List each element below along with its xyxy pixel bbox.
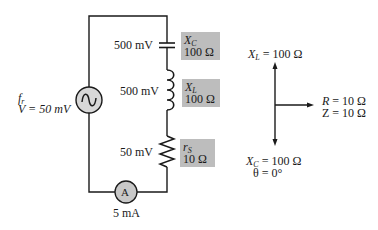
- phasor-z-label: Z = 10 Ω: [322, 107, 366, 120]
- resistor-value-box: rS 10 Ω: [180, 139, 215, 167]
- arrow-down-icon: [273, 139, 278, 146]
- resistor-voltage-label: 50 mV: [120, 146, 153, 159]
- inductor-coil: [167, 70, 174, 110]
- inductor-voltage-label: 500 mV: [120, 85, 159, 98]
- resistor-zigzag: [160, 136, 174, 167]
- ac-source-symbol: [76, 87, 102, 113]
- ammeter-reading: 5 mA: [113, 207, 140, 220]
- source-voltage-label: V = 50 mV: [18, 103, 70, 116]
- arrow-up-icon: [273, 62, 278, 69]
- phasor-angle-label: θ = 0°: [253, 167, 282, 180]
- ammeter-symbol-label: A: [121, 186, 129, 199]
- arrow-right-icon: [307, 103, 314, 108]
- capacitor-reactance-box: XC 100 Ω: [181, 32, 220, 60]
- inductor-reactance-box: XL 100 Ω: [182, 79, 220, 107]
- capacitor-voltage-label: 500 mV: [114, 39, 153, 52]
- circuit-diagram: fr V = 50 mV 500 mV XC 100 Ω 500 mV XL 1…: [0, 0, 378, 230]
- phasor-diagram: [273, 62, 315, 146]
- phasor-xl-label: XL = 100 Ω: [248, 48, 302, 61]
